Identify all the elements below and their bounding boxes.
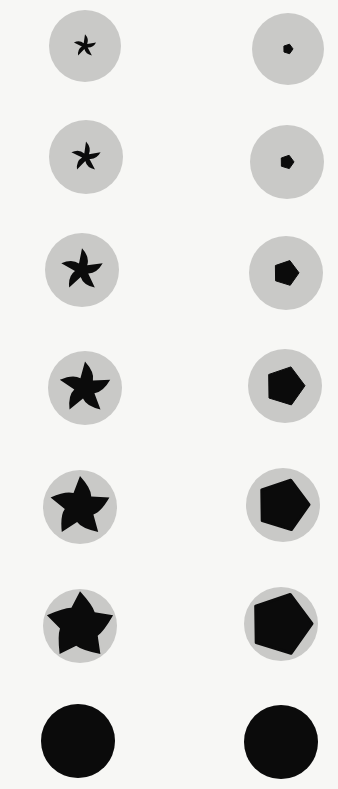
fully-open-aperture	[244, 705, 318, 779]
iris-plate	[0, 0, 338, 789]
curved-blade-iris-column	[41, 10, 123, 778]
pentagonal-iris-column	[244, 13, 324, 779]
fully-open-aperture	[41, 704, 115, 778]
